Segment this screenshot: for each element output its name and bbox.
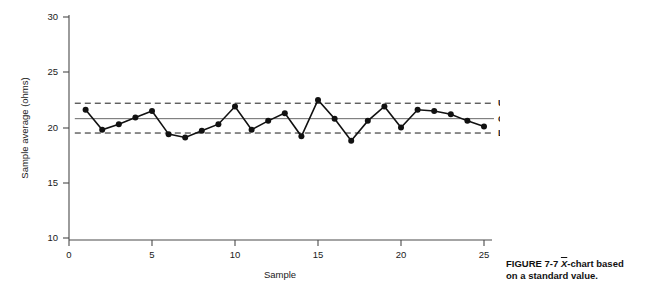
data-point xyxy=(332,116,338,122)
chart-canvas: 30 25 20 15 10 Sample average (ohms) 0 xyxy=(0,0,500,290)
data-point xyxy=(431,108,437,114)
data-point xyxy=(83,107,89,113)
data-point xyxy=(166,131,172,137)
x-tick-label-20: 20 xyxy=(396,249,407,260)
data-point xyxy=(398,125,404,131)
data-point xyxy=(99,127,105,133)
data-point xyxy=(232,104,238,110)
figure-caption: FIGURE 7-7 X-chart based on a standard v… xyxy=(506,258,646,282)
control-limit-label-ucl: UCL xyxy=(498,98,500,108)
y-tick-label-20: 20 xyxy=(47,122,58,133)
data-point xyxy=(116,121,122,127)
x-tick-label-25: 25 xyxy=(479,249,490,260)
data-point xyxy=(298,133,304,139)
caption-figure-number: FIGURE 7-7 xyxy=(506,258,558,269)
control-limit-labels: UCLCLLCL xyxy=(498,98,500,138)
y-tick-label-15: 15 xyxy=(47,177,58,188)
data-point xyxy=(464,118,470,124)
data-point xyxy=(149,108,155,114)
sample-average-points xyxy=(83,97,487,144)
data-point xyxy=(215,121,221,127)
data-point xyxy=(381,104,387,110)
y-axis-title: Sample average (ohms) xyxy=(19,77,30,178)
data-point xyxy=(481,123,487,129)
control-chart: 30 25 20 15 10 Sample average (ohms) 0 xyxy=(0,0,500,290)
x-tick-label-0: 0 xyxy=(66,249,71,260)
control-limit-label-lcl: LCL xyxy=(498,128,500,138)
data-point xyxy=(415,107,421,113)
data-point xyxy=(182,134,188,140)
figure-container: 30 25 20 15 10 Sample average (ohms) 0 xyxy=(0,0,647,307)
data-point xyxy=(199,128,205,134)
x-axis-ticks xyxy=(69,240,484,246)
data-point xyxy=(448,111,454,117)
caption-text-after: -chart based xyxy=(567,258,624,269)
x-axis: 0 5 10 15 20 25 Sample xyxy=(66,240,492,280)
y-tick-label-10: 10 xyxy=(47,232,58,243)
sample-average-line xyxy=(86,100,484,141)
x-tick-label-5: 5 xyxy=(149,249,154,260)
data-point xyxy=(132,115,138,121)
control-limit-label-cl: CL xyxy=(498,114,500,124)
data-point xyxy=(265,118,271,124)
y-axis-ticks xyxy=(63,17,69,238)
data-point xyxy=(282,110,288,116)
x-tick-label-10: 10 xyxy=(230,249,241,260)
y-axis: 30 25 20 15 10 Sample average (ohms) xyxy=(19,11,69,243)
data-point xyxy=(249,127,255,133)
data-point xyxy=(365,118,371,124)
data-point xyxy=(348,138,354,144)
y-tick-label-25: 25 xyxy=(47,66,58,77)
data-point xyxy=(315,97,321,103)
x-tick-label-15: 15 xyxy=(313,249,324,260)
y-tick-label-30: 30 xyxy=(47,11,58,22)
x-axis-title: Sample xyxy=(264,269,296,280)
caption-line-2: on a standard value. xyxy=(506,270,598,281)
